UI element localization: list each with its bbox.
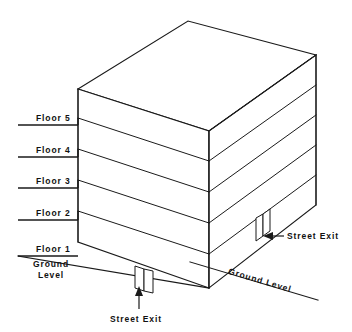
street-exit-label-front: Street Exit bbox=[110, 314, 162, 325]
street-exit-door-front-right-panel bbox=[144, 269, 153, 293]
street-exit-label-right: Street Exit bbox=[287, 231, 339, 242]
building-diagram: Floor 5 Floor 4 Floor 3 Floor 2 Floor 1 … bbox=[0, 0, 352, 332]
building-illustration bbox=[0, 0, 352, 332]
street-exit-door-right-right-panel bbox=[263, 209, 270, 236]
street-exit-door-right-left-panel bbox=[256, 214, 263, 241]
ground-level-label-left-line1: Ground bbox=[20, 259, 82, 270]
floor-label-3: Floor 3 bbox=[36, 176, 71, 187]
floor-label-1: Floor 1 bbox=[36, 244, 71, 255]
floor-label-4: Floor 4 bbox=[36, 145, 71, 156]
floor-label-5: Floor 5 bbox=[36, 113, 71, 124]
floor-label-2: Floor 2 bbox=[36, 208, 71, 219]
ground-level-label-left-line2: Level bbox=[20, 270, 82, 281]
ground-level-label-left: Ground Level bbox=[20, 259, 82, 281]
